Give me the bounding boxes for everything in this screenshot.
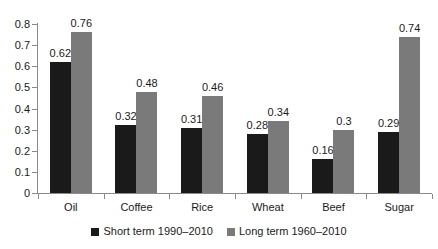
bar-sugar-short-term[interactable] [378, 132, 399, 193]
bar-value-label: 0.48 [130, 78, 163, 89]
x-axis-tick [104, 194, 105, 199]
bar-sugar-long-term[interactable] [399, 37, 420, 193]
y-axis-tick-label: 0.8 [0, 19, 30, 30]
bar-group: 0.310.46 [169, 24, 235, 193]
legend-label: Long term 1960–2010 [239, 226, 347, 237]
bar-value-label: 0.46 [196, 82, 229, 93]
x-axis-tick [432, 194, 433, 199]
bar-group: 0.160.3 [301, 24, 367, 193]
bar-group: 0.620.76 [38, 24, 104, 193]
y-axis-tick [32, 66, 37, 67]
x-axis-tick [169, 194, 170, 199]
x-axis-label-wheat: Wheat [235, 201, 301, 213]
bar-wheat-short-term[interactable] [247, 134, 268, 193]
x-axis-tick [38, 194, 39, 199]
y-axis-tick-label: 0.3 [0, 125, 30, 136]
bar-rice-long-term[interactable] [202, 96, 223, 193]
y-axis-tick [32, 130, 37, 131]
y-axis-tick [32, 172, 37, 173]
x-axis-label-sugar: Sugar [366, 201, 432, 213]
legend-swatch-icon [227, 228, 235, 236]
bar-group: 0.320.48 [104, 24, 170, 193]
x-axis-label-rice: Rice [169, 201, 235, 213]
x-axis-tick [235, 194, 236, 199]
y-axis-tick-label: 0.7 [0, 40, 30, 51]
y-axis-tick [32, 24, 37, 25]
x-axis-label-beef: Beef [301, 201, 367, 213]
legend-swatch-icon [91, 228, 99, 236]
y-axis-tick-label: 0 [0, 188, 30, 199]
y-axis-tick [32, 45, 37, 46]
legend-item-short-term[interactable]: Short term 1990–2010 [91, 226, 212, 237]
bar-beef-short-term[interactable] [312, 159, 333, 193]
bar-value-label: 0.74 [393, 23, 426, 34]
legend-item-long-term[interactable]: Long term 1960–2010 [227, 226, 347, 237]
y-axis-tick-label: 0.4 [0, 104, 30, 115]
y-axis-tick [32, 151, 37, 152]
bar-coffee-short-term[interactable] [115, 125, 136, 193]
bar-oil-short-term[interactable] [50, 62, 71, 193]
y-axis-tick [32, 109, 37, 110]
legend-label: Short term 1990–2010 [103, 226, 212, 237]
y-axis-tick-label: 0.2 [0, 146, 30, 157]
bar-chart: 00.10.20.30.40.50.60.70.8 0.620.760.320.… [0, 0, 438, 249]
x-axis-label-coffee: Coffee [104, 201, 170, 213]
x-axis-tick [366, 194, 367, 199]
x-axis-tick [301, 194, 302, 199]
y-axis-tick [32, 193, 37, 194]
bar-value-label: 0.76 [65, 18, 98, 29]
x-axis-label-oil: Oil [38, 201, 104, 213]
plot-area: 0.620.760.320.480.310.460.280.340.160.30… [38, 24, 432, 193]
y-axis-tick [32, 87, 37, 88]
bar-group: 0.290.74 [366, 24, 432, 193]
y-axis-tick-label: 0.1 [0, 167, 30, 178]
y-axis-tick-label: 0.6 [0, 61, 30, 72]
bar-oil-long-term[interactable] [71, 32, 92, 193]
bar-group: 0.280.34 [235, 24, 301, 193]
chart-legend: Short term 1990–2010Long term 1960–2010 [0, 226, 438, 237]
bar-rice-short-term[interactable] [181, 128, 202, 193]
bar-value-label: 0.3 [327, 116, 360, 127]
bar-wheat-long-term[interactable] [268, 121, 289, 193]
y-axis-tick-label: 0.5 [0, 82, 30, 93]
bar-value-label: 0.34 [262, 107, 295, 118]
bar-coffee-long-term[interactable] [136, 92, 157, 193]
bar-beef-long-term[interactable] [333, 130, 354, 193]
